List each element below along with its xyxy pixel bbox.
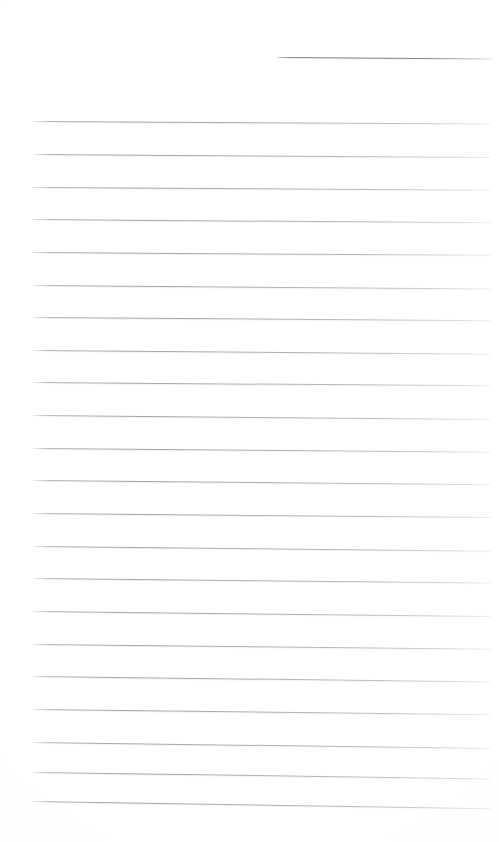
header-rule-line	[278, 57, 492, 59]
rule-line	[33, 252, 490, 256]
notebook-page: Blank ruled notebook page Scanned blank …	[0, 0, 499, 842]
rule-line	[33, 513, 490, 518]
rule-line	[33, 285, 490, 290]
paper-surface	[0, 0, 499, 842]
rule-line	[33, 317, 490, 321]
rule-line	[33, 772, 490, 779]
rule-line	[33, 350, 490, 355]
rule-line	[33, 121, 490, 124]
rule-line	[33, 480, 490, 485]
rule-line	[33, 448, 490, 453]
rule-line	[33, 546, 490, 552]
rule-line	[33, 676, 490, 682]
rule-line	[33, 187, 490, 191]
rule-line	[33, 644, 490, 650]
rule-line	[33, 415, 490, 420]
rule-line	[33, 578, 490, 583]
rule-line	[33, 219, 490, 223]
rule-line	[33, 801, 490, 809]
rule-line	[33, 611, 490, 617]
rule-line	[33, 709, 490, 715]
page-edge-vignette	[0, 0, 499, 842]
rule-line	[33, 742, 490, 749]
rule-line	[33, 154, 490, 158]
rule-line	[33, 382, 490, 386]
